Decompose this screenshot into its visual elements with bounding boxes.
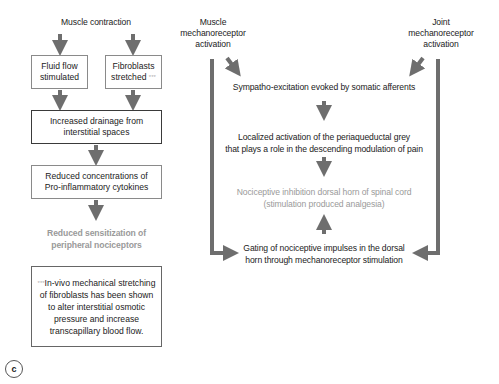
node-label: Pro-inflammatory cytokines: [45, 182, 149, 193]
node-nociceptive-inhibition: Nociceptive inhibition dorsal horn of sp…: [214, 186, 434, 210]
node-label: horn through mechanoreceptor stimulation: [224, 254, 424, 266]
panel-label: c: [5, 360, 23, 378]
node-sympatho-excitation: Sympatho-excitation evoked by somatic af…: [224, 82, 424, 93]
node-label: Reduced sensitization of: [31, 227, 162, 239]
footnote-box: ***In-vivo mechanical stretching of fibr…: [31, 266, 162, 347]
node-label: mechanoreceptor: [396, 28, 486, 39]
node-muscle-mechanoreceptor: Muscle mechanoreceptor activation: [170, 17, 256, 50]
node-label: Nociceptive inhibition dorsal horn of sp…: [214, 186, 434, 198]
node-label: Muscle contraction: [61, 17, 131, 27]
node-label: Joint: [396, 17, 486, 28]
footnote-marker: ***: [149, 74, 156, 80]
node-label: Increased drainage from: [50, 116, 143, 127]
node-label: activation: [170, 39, 256, 50]
node-gating: Gating of nociceptive impulses in the do…: [224, 242, 424, 266]
node-fibroblasts-stretched: Fibroblasts stretched ***: [105, 55, 162, 89]
arrow-diagonal-icon: [414, 58, 423, 70]
footnote-line: pressure and increase: [38, 313, 156, 325]
node-label: mechanoreceptor: [170, 28, 256, 39]
footnote-marker: ***: [38, 280, 45, 286]
arrow-diagonal-icon: [227, 58, 236, 70]
node-reduced-cytokines: Reduced concentrations of Pro-inflammato…: [31, 165, 162, 199]
node-label: that plays a role in the descending modu…: [214, 143, 434, 155]
node-label: stretched: [111, 72, 146, 82]
footnote-line: of fibroblasts has been shown: [38, 289, 156, 301]
node-periaqueductal-grey: Localized activation of the periaqueduct…: [214, 131, 434, 155]
node-label: stimulated: [40, 72, 79, 83]
footnote-line: In-vivo mechanical stretching: [45, 278, 156, 288]
node-label: Fluid flow: [40, 61, 79, 72]
node-reduced-sensitization: Reduced sensitization of peripheral noci…: [31, 227, 162, 251]
node-fluid-flow: Fluid flow stimulated: [31, 55, 88, 89]
node-label: Reduced concentrations of: [45, 171, 149, 182]
footnote-line: to alter interstitial osmotic: [38, 301, 156, 313]
node-label: Sympatho-excitation evoked by somatic af…: [233, 82, 415, 92]
node-muscle-contraction: Muscle contraction: [40, 17, 152, 28]
node-label: Muscle: [170, 17, 256, 28]
node-label: Gating of nociceptive impulses in the do…: [224, 242, 424, 254]
node-label: Localized activation of the periaqueduct…: [214, 131, 434, 143]
node-label: activation: [396, 39, 486, 50]
footnote-line: transcapillary blood flow.: [38, 325, 156, 337]
panel-label-text: c: [11, 364, 16, 374]
node-joint-mechanoreceptor: Joint mechanoreceptor activation: [396, 17, 486, 50]
node-label: peripheral nociceptors: [31, 239, 162, 251]
node-label: interstitial spaces: [50, 127, 143, 138]
node-label: Fibroblasts: [111, 61, 156, 72]
node-label: (stimulation produced analgesia): [214, 198, 434, 210]
node-increased-drainage: Increased drainage from interstitial spa…: [31, 110, 162, 144]
